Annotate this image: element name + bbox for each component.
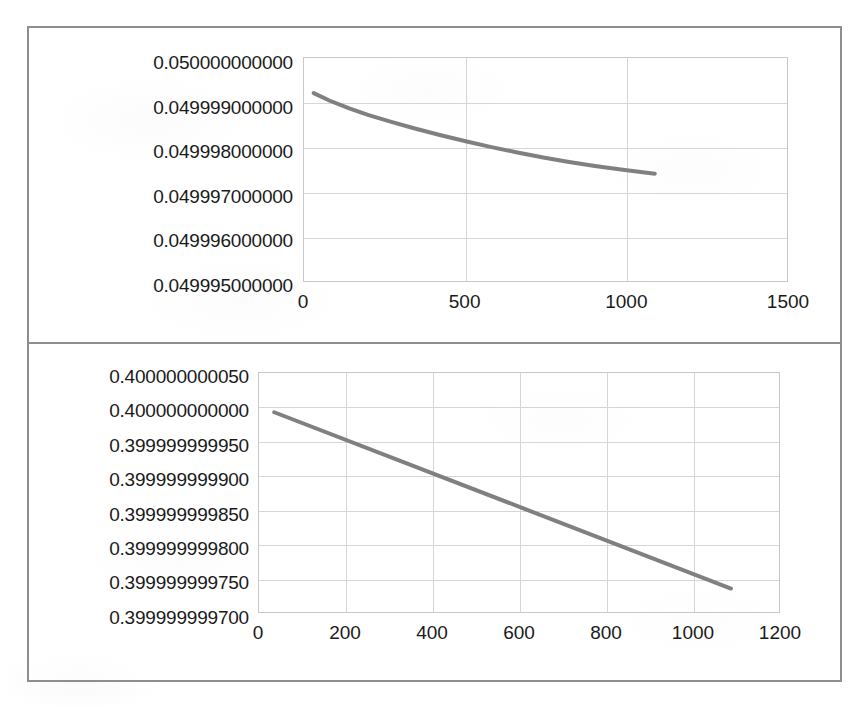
x-tick-label: 400 bbox=[416, 623, 448, 642]
y-tick-label: 0.049995000000 bbox=[153, 276, 293, 295]
y-axis-labels: 0.4000000000500.4000000000000.3999999999… bbox=[27, 344, 249, 585]
plot-area bbox=[258, 372, 780, 613]
data-series-line bbox=[274, 412, 731, 588]
y-tick-label: 0.050000000000 bbox=[153, 53, 293, 72]
series-layer bbox=[259, 373, 781, 614]
x-tick-label: 1500 bbox=[767, 292, 809, 311]
y-tick-label: 0.049998000000 bbox=[153, 142, 293, 161]
x-tick-label: 600 bbox=[503, 623, 535, 642]
y-tick-label: 0.399999999950 bbox=[109, 435, 249, 454]
x-tick-label: 0 bbox=[298, 292, 309, 311]
x-tick-label: 200 bbox=[329, 623, 361, 642]
x-tick-label: 500 bbox=[449, 292, 481, 311]
y-tick-label: 0.049997000000 bbox=[153, 186, 293, 205]
y-axis-labels: 0.0500000000000.0499990000000.0499980000… bbox=[27, 28, 293, 253]
x-tick-label: 800 bbox=[590, 623, 622, 642]
y-tick-label: 0.399999999800 bbox=[109, 539, 249, 558]
y-tick-label: 0.399999999900 bbox=[109, 470, 249, 489]
x-tick-label: 1200 bbox=[759, 623, 801, 642]
y-tick-label: 0.400000000050 bbox=[109, 367, 249, 386]
plot-area bbox=[303, 57, 788, 282]
x-tick-label: 1000 bbox=[605, 292, 647, 311]
y-tick-label: 0.399999999700 bbox=[109, 607, 249, 626]
chart-panel-bottom: 0.4000000000500.4000000000000.3999999999… bbox=[27, 344, 842, 682]
y-tick-label: 0.400000000000 bbox=[109, 401, 249, 420]
y-tick-label: 0.049999000000 bbox=[153, 97, 293, 116]
y-tick-label: 0.049996000000 bbox=[153, 231, 293, 250]
series-layer bbox=[304, 58, 789, 283]
x-tick-label: 0 bbox=[253, 623, 264, 642]
x-tick-label: 1000 bbox=[672, 623, 714, 642]
y-tick-label: 0.399999999750 bbox=[109, 573, 249, 592]
chart-panel-top: 0.0500000000000.0499990000000.0499980000… bbox=[27, 28, 842, 342]
data-series-line bbox=[314, 93, 655, 174]
y-tick-label: 0.399999999850 bbox=[109, 504, 249, 523]
